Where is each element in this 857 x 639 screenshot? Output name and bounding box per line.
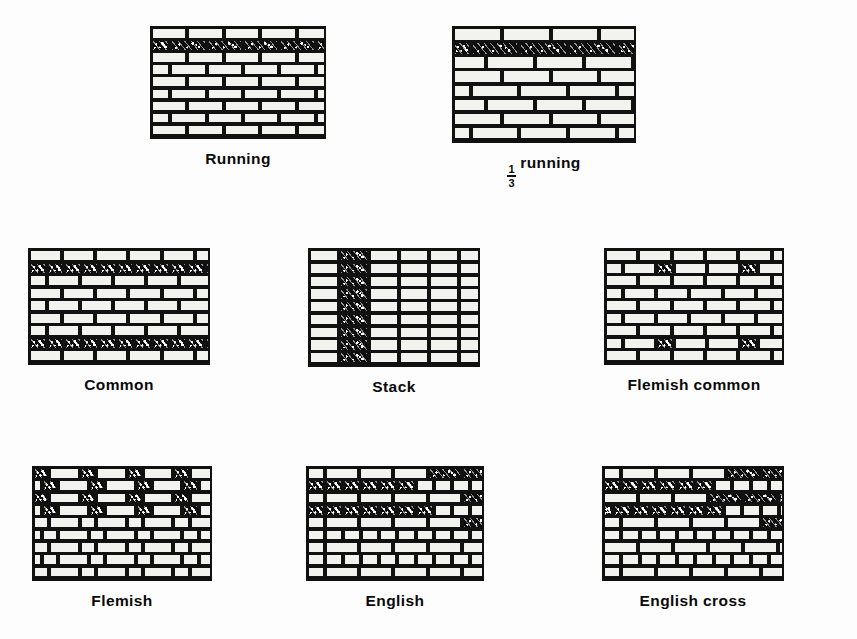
brick [430,263,458,274]
caption-fraction: 13 [507,164,516,190]
brick [261,28,295,39]
brick-course [604,468,782,479]
bond-caption-text: Stack [372,378,415,395]
brick-dark [326,480,342,491]
brick [430,339,458,350]
brick [606,350,637,361]
brick [308,517,324,528]
bond-panel-english: English [306,466,484,610]
brick-dark [463,493,482,504]
bond-panel-english-cross: English cross [602,466,784,610]
brick [552,113,599,126]
brick [585,56,632,69]
brick [675,263,706,274]
brick-dark [604,480,620,491]
brick [454,70,501,83]
brick [370,352,398,363]
brick [196,313,208,324]
brick [183,530,197,541]
brick [114,325,145,336]
bond-caption-running: Running [205,150,271,168]
brick [280,64,314,75]
brick [641,530,657,541]
brick [460,263,478,274]
brick [30,288,61,299]
brick-dark [30,338,46,349]
brick-course [606,263,782,274]
brick [188,125,222,136]
brick [715,554,731,565]
brick-dark [90,505,104,516]
brick-course [310,339,478,350]
brick-bond-figure: Running13runningCommonStackFlemish commo… [0,0,857,639]
brick [639,250,670,261]
brick-dark [463,468,482,479]
brick [96,288,127,299]
bond-caption-third-running: 13running [507,154,580,189]
brick [360,517,392,528]
brick [454,56,485,69]
brick-dark [208,40,242,51]
brick-course [310,288,478,299]
brick [326,554,342,565]
brick [624,313,655,324]
brick-course [34,493,210,504]
brick [153,480,182,491]
brick [308,554,324,565]
brick [370,301,398,312]
brick-course [308,542,482,553]
brick-dark [380,480,396,491]
brick-dark [152,40,169,51]
brick [770,554,782,565]
brick [81,325,112,336]
brick-course [454,99,634,112]
brick-dark [153,263,169,274]
brick [370,327,398,338]
brick [733,554,749,565]
brick [59,505,88,516]
brick [280,113,314,124]
brick [463,567,482,578]
brick-course [308,493,482,504]
brick [344,530,360,541]
brick [153,554,182,565]
brick-dark [417,505,433,516]
brick [137,530,151,541]
brick [770,480,782,491]
brick [153,530,182,541]
brick-course [604,517,782,528]
brick [606,288,622,299]
brick [429,542,461,553]
brick [453,505,469,516]
brick [709,542,742,553]
brick-course [308,567,482,578]
brick [360,567,392,578]
brick-dark [174,493,188,504]
brick [600,113,634,126]
brick [50,493,79,504]
brick [624,338,655,349]
brick [144,468,173,479]
bond-panel-third-running: 13running [452,26,636,189]
brick-dark [118,338,134,349]
brick [208,64,242,75]
brick [400,327,428,338]
brick [114,300,145,311]
brick [152,52,186,63]
brick-dark [171,40,205,51]
brick [30,275,46,286]
brick [639,275,670,286]
brick [673,250,704,261]
brick [417,480,433,491]
bond-panel-common: Common [28,248,210,394]
brick [472,85,519,98]
brick [317,89,324,100]
brick [706,250,737,261]
brick [244,89,278,100]
brick [30,350,61,361]
brick [34,542,48,553]
bond-caption-text: running [520,154,580,171]
brick [692,517,725,528]
brick [600,28,634,41]
brick [675,338,706,349]
